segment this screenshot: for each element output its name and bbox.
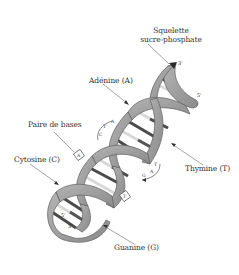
pair-letter-lower-a: A <box>150 167 153 176</box>
label-cytosine: Cytosine (C) <box>14 155 60 164</box>
label-backbone-line2: sucre-phosphate <box>126 35 216 44</box>
strand-end-top-5prime: 5' <box>197 91 201 100</box>
strand-end-top-3prime: 3' <box>178 59 182 68</box>
pair-letter-lower-g: G <box>142 171 146 180</box>
label-thymine: Thymine (T) <box>185 164 230 173</box>
label-backbone-line1: Squelette <box>126 26 216 35</box>
sugar-phosphate-backbone <box>48 64 198 242</box>
pair-letter-upper-t: T <box>103 122 106 131</box>
label-adenine: Adénine (A) <box>89 76 133 85</box>
pair-box-letter-t: T <box>123 192 126 201</box>
strand-end-bottom-3prime: 3' <box>68 222 72 231</box>
label-guanine: Guanine (G) <box>114 243 159 252</box>
pair-box-letter-a: A <box>77 151 80 160</box>
label-base-pair: Paire de bases <box>28 120 82 129</box>
strand-end-bottom-5prime: 5' <box>61 211 65 220</box>
label-backbone: Squelette sucre-phosphate <box>126 26 216 44</box>
dna-diagram: Squelette sucre-phosphate Adénine (A) Pa… <box>0 0 239 275</box>
pair-letter-lower-t: T <box>154 160 157 169</box>
pair-letter-upper-c: C <box>99 130 102 139</box>
pair-letter-upper-a: A <box>111 117 114 126</box>
